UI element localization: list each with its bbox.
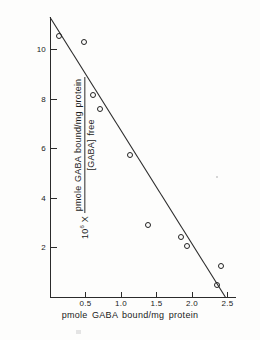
x-tick-2.0	[192, 292, 193, 298]
x-tick-label-2.0: 2.0	[186, 299, 198, 308]
y-tick-2	[51, 247, 57, 248]
y-tick-6	[51, 148, 57, 149]
figure-scatchard-plot: 0.51.01.52.02.5 246810 pmole GABA bound/…	[0, 0, 260, 340]
y-axis-numerator: pmole GABA bound/mg protein	[73, 76, 85, 212]
data-point	[145, 222, 151, 228]
y-axis-denominator: [GABA] free	[86, 119, 97, 170]
x-tick-0.5	[85, 292, 86, 298]
y-axis-scale-operator: X	[81, 216, 91, 222]
data-point	[214, 282, 220, 288]
y-axis-scale-factor: 106 X	[80, 216, 91, 239]
x-tick-label-1.5: 1.5	[151, 299, 163, 308]
x-axis-line	[50, 297, 236, 298]
data-point	[218, 263, 224, 269]
y-axis-fraction: pmole GABA bound/mg protein [GABA] free	[73, 76, 97, 212]
y-axis-scale-exponent: 6	[80, 225, 86, 229]
scan-speck-right	[216, 176, 218, 178]
x-tick-1.0	[121, 292, 122, 298]
y-tick-10	[51, 49, 57, 50]
x-axis-title: pmole GABA bound/mg protein	[0, 310, 260, 320]
data-point	[127, 152, 133, 158]
x-tick-label-1.0: 1.0	[115, 299, 127, 308]
data-point	[178, 234, 184, 240]
y-axis-scale-base: 10	[81, 228, 91, 238]
data-point	[56, 33, 62, 39]
x-tick-label-2.5: 2.5	[222, 299, 234, 308]
data-point	[81, 39, 87, 45]
data-point	[184, 243, 190, 249]
y-tick-4	[51, 198, 57, 199]
scan-artifact-bottom	[76, 330, 81, 334]
x-tick-1.5	[156, 292, 157, 298]
y-axis-title: 106 X pmole GABA bound/mg protein [GABA]…	[4, 17, 46, 298]
y-tick-8	[51, 99, 57, 100]
data-point	[97, 106, 103, 112]
x-tick-2.5	[227, 292, 228, 298]
x-tick-label-0.5: 0.5	[80, 299, 92, 308]
